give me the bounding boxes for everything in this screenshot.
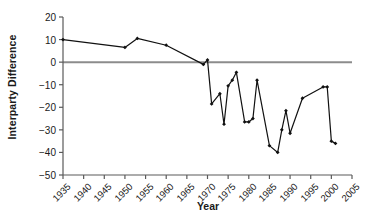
y-axis-tick-label-text: 10 [22,34,56,45]
data-point-marker [288,131,292,135]
data-point-marker [243,120,247,124]
data-point-marker [284,109,288,113]
data-point-marker [255,78,259,82]
data-point-marker [325,85,329,89]
y-axis-tick-label-text: 0 [22,57,56,68]
y-axis-tick-label-text: −30 [22,124,56,135]
data-series-markers [61,37,337,155]
plot-area [59,17,352,179]
x-axis-title: Year [63,200,353,212]
data-point-marker [61,38,65,42]
y-axis-tick-label-text: −50 [22,170,56,181]
data-point-marker [222,122,226,126]
data-point-marker [280,128,284,132]
x-axis-ticks [63,175,352,179]
chart-figure: Interparty Difference 20100−10−20−30−40−… [0,0,367,220]
data-series-line [63,38,335,152]
y-axis-tick-label-text: 20 [22,12,56,23]
y-axis-tick-label-text: −10 [22,79,56,90]
y-axis-tick-label-text: −20 [22,102,56,113]
y-axis-tick-label-text: −40 [22,147,56,158]
